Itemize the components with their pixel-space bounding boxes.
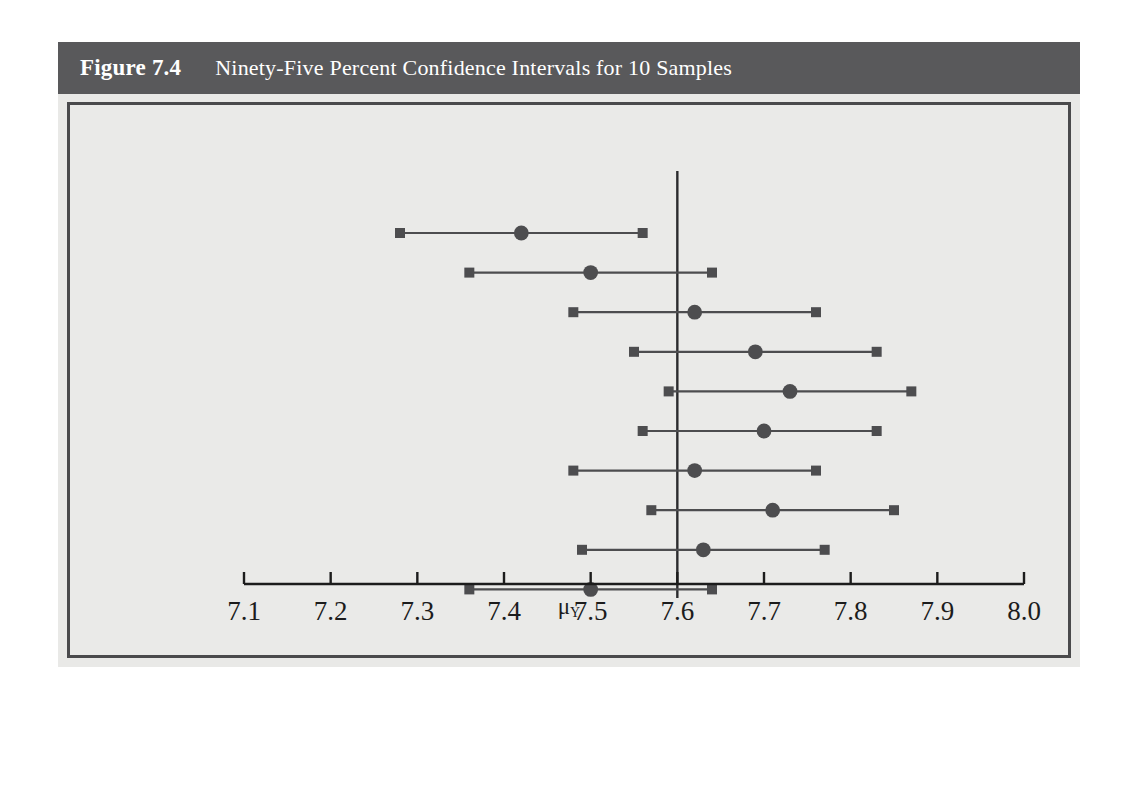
- confidence-interval-row: [638, 424, 882, 439]
- interval-upper-endpoint: [811, 307, 821, 317]
- confidence-interval-row: [395, 226, 648, 241]
- interval-lower-endpoint: [629, 347, 639, 357]
- confidence-interval-row: [646, 503, 899, 518]
- interval-lower-endpoint: [577, 545, 587, 555]
- interval-lower-endpoint: [646, 505, 656, 515]
- interval-upper-endpoint: [707, 584, 717, 594]
- interval-center-point: [757, 424, 772, 439]
- confidence-interval-row: [464, 265, 717, 280]
- interval-upper-endpoint: [811, 466, 821, 476]
- interval-center-point: [783, 384, 798, 399]
- interval-lower-endpoint: [395, 228, 405, 238]
- x-axis-label: μY: [70, 594, 1068, 620]
- confidence-interval-row: [568, 305, 821, 320]
- plot-panel: 7.17.27.37.47.57.67.77.87.98.0 μY: [67, 102, 1071, 658]
- figure-caption: Ninety-Five Percent Confidence Intervals…: [215, 55, 732, 81]
- interval-center-point: [514, 226, 529, 241]
- confidence-interval-row: [629, 344, 882, 359]
- interval-lower-endpoint: [464, 584, 474, 594]
- interval-lower-endpoint: [638, 426, 648, 436]
- confidence-interval-chart: 7.17.27.37.47.57.67.77.87.98.0: [70, 105, 1074, 661]
- confidence-interval-row: [664, 384, 917, 399]
- interval-center-point: [765, 503, 780, 518]
- interval-upper-endpoint: [889, 505, 899, 515]
- interval-center-point: [748, 344, 763, 359]
- interval-upper-endpoint: [638, 228, 648, 238]
- plot-area: 7.17.27.37.47.57.67.77.87.98.0: [70, 105, 1068, 655]
- figure-number: Figure 7.4: [80, 55, 181, 81]
- interval-lower-endpoint: [568, 307, 578, 317]
- confidence-interval-row: [577, 542, 830, 557]
- confidence-interval-row: [568, 463, 821, 478]
- interval-lower-endpoint: [568, 466, 578, 476]
- interval-upper-endpoint: [906, 386, 916, 396]
- interval-center-point: [687, 463, 702, 478]
- interval-lower-endpoint: [464, 268, 474, 278]
- interval-upper-endpoint: [820, 545, 830, 555]
- interval-center-point: [687, 305, 702, 320]
- interval-center-point: [583, 265, 598, 280]
- mu-symbol: μ: [558, 594, 570, 619]
- interval-upper-endpoint: [872, 426, 882, 436]
- figure-titlebar: Figure 7.4 Ninety-Five Percent Confidenc…: [58, 42, 1080, 94]
- mu-subscript: Y: [570, 605, 580, 620]
- interval-upper-endpoint: [872, 347, 882, 357]
- figure-container: Figure 7.4 Ninety-Five Percent Confidenc…: [58, 42, 1080, 667]
- interval-upper-endpoint: [707, 268, 717, 278]
- interval-center-point: [696, 542, 711, 557]
- interval-lower-endpoint: [664, 386, 674, 396]
